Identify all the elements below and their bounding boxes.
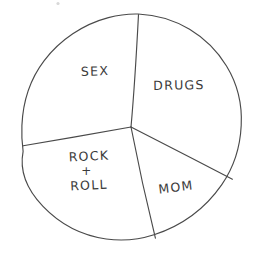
pie-label-sex: SEX [81,63,110,79]
pie-label-drugs: DRUGS [153,77,205,93]
scan-speck-artifact [56,2,59,5]
pie-label-rock-and-roll-line-1: ROCK [68,147,109,164]
pie-label-rock-and-roll-line-3: ROLL [70,177,108,194]
pie-slice-sex[interactable] [20,16,138,145]
pie-label-rock-and-roll-line-2: + [81,164,92,178]
pie-chart-canvas: SEX DRUGS MOM ROCK + ROLL [0,0,257,264]
pie-chart-figure: SEX DRUGS MOM ROCK + ROLL [0,0,257,264]
